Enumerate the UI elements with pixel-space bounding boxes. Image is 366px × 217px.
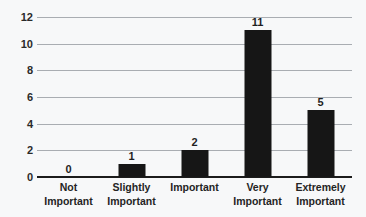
y-tick-label: 4 (1, 118, 33, 129)
x-tick-label: ExtremelyImportant (289, 180, 352, 208)
bar-slot: 0 (37, 0, 100, 177)
x-tick-label: NotImportant (37, 180, 100, 208)
bar-value-label: 0 (65, 163, 71, 175)
x-tick-label-line: Important (100, 194, 163, 208)
x-tick-label-line: Not (37, 180, 100, 194)
x-tick-label-line: Important (37, 194, 100, 208)
x-tick-label: Important (163, 180, 226, 194)
bar-slot: 2 (163, 0, 226, 177)
bar[interactable] (244, 30, 271, 177)
x-tick-label-line: Important (163, 180, 226, 194)
bar-slot: 1 (100, 0, 163, 177)
bar-slot: 5 (289, 0, 352, 177)
x-tick-label-line: Extremely (289, 180, 352, 194)
plot-area: 012115 (37, 0, 352, 177)
x-tick-label-line: Slightly (100, 180, 163, 194)
y-tick-label: 10 (1, 38, 33, 49)
bar-value-label: 5 (317, 96, 323, 108)
y-tick-label: 8 (1, 65, 33, 76)
bar[interactable] (181, 150, 208, 177)
bar-slot: 11 (226, 0, 289, 177)
bar-value-label: 11 (252, 16, 264, 28)
bar-value-label: 2 (191, 136, 197, 148)
bar-chart: 024681012 012115 NotImportantSlightlyImp… (0, 0, 366, 217)
bar-value-label: 1 (128, 150, 134, 162)
x-axis: NotImportantSlightlyImportantImportantVe… (37, 180, 352, 217)
y-tick-label: 2 (1, 145, 33, 156)
x-tick-label-line: Very (226, 180, 289, 194)
x-tick-label-line: Important (289, 194, 352, 208)
bar[interactable] (307, 110, 334, 177)
y-tick-label: 6 (1, 92, 33, 103)
y-axis: 024681012 (0, 0, 33, 217)
x-tick-label-line: Important (226, 194, 289, 208)
y-tick-label: 12 (1, 12, 33, 23)
bar[interactable] (118, 164, 145, 177)
x-tick-label: VeryImportant (226, 180, 289, 208)
y-tick-label: 0 (1, 172, 33, 183)
x-tick-label: SlightlyImportant (100, 180, 163, 208)
